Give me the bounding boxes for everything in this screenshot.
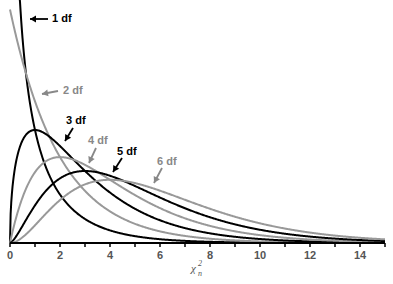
- chi-squared-chart: 02468101214 1 df2 df3 df4 df5 df6 df χ 2…: [0, 0, 393, 284]
- curve-5df: [10, 171, 385, 243]
- x-tick-label: 14: [354, 249, 367, 261]
- curve-label-4df: 4 df: [88, 134, 108, 146]
- x-axis: 02468101214: [7, 243, 385, 261]
- x-axis-label-sub: n: [198, 269, 202, 278]
- x-axis-label-sup: 2: [198, 259, 202, 268]
- arrowhead-icon: [42, 89, 49, 96]
- x-axis-label: χ: [190, 262, 197, 274]
- x-tick-label: 2: [57, 249, 63, 261]
- curve-6df: [10, 180, 385, 243]
- curve-label-2df: 2 df: [63, 84, 83, 96]
- curve-label-6df: 6 df: [157, 155, 177, 167]
- curve-label-5df: 5 df: [117, 145, 137, 157]
- arrowhead-icon: [30, 16, 36, 23]
- curve-label-1df: 1 df: [52, 12, 72, 24]
- x-tick-label: 8: [207, 249, 213, 261]
- curve-3df: [10, 130, 385, 243]
- curve-label-3df: 3 df: [66, 114, 86, 126]
- x-tick-label: 0: [7, 249, 13, 261]
- x-tick-label: 6: [157, 249, 163, 261]
- x-tick-label: 12: [304, 249, 316, 261]
- x-tick-label: 10: [254, 249, 266, 261]
- curve-2df: [10, 10, 385, 243]
- x-tick-label: 4: [107, 249, 114, 261]
